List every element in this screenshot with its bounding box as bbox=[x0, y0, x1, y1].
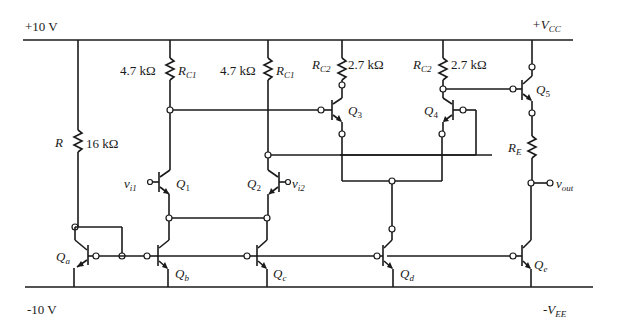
resistor-r bbox=[74, 40, 82, 227]
rc1-right-value: 4.7 kΩ bbox=[220, 64, 256, 77]
resistor-rc1-left bbox=[166, 40, 174, 110]
transistor-qc bbox=[250, 240, 267, 287]
resistor-re bbox=[528, 136, 536, 158]
re-name: RE bbox=[508, 141, 521, 154]
vout-terminal[interactable] bbox=[547, 180, 553, 186]
q4-label: Q4 bbox=[424, 104, 438, 117]
transistor-q3 bbox=[324, 98, 342, 131]
rc2-right-value: 2.7 kΩ bbox=[451, 58, 487, 71]
node-q34-emitter bbox=[389, 178, 395, 184]
vi1-label: vi1 bbox=[124, 177, 137, 190]
rc1-left-name: RC1 bbox=[178, 64, 196, 77]
circuit-diagram: +10 V +VCC -10 V -VEE R 16 kΩ 4.7 kΩ RC1… bbox=[0, 0, 618, 328]
rc2-left-name: RC2 bbox=[312, 58, 330, 71]
q5-label: Q5 bbox=[536, 83, 550, 96]
vi2-label: vi2 bbox=[292, 177, 305, 190]
resistor-rc1-right bbox=[264, 40, 272, 152]
qe-label: Qe bbox=[534, 258, 547, 271]
resistor-r-name: R bbox=[55, 136, 63, 149]
transistor-qe bbox=[516, 240, 531, 287]
vcc-label: +VCC bbox=[532, 18, 561, 31]
node-output bbox=[528, 180, 534, 186]
qa-label: Qa bbox=[56, 250, 70, 263]
resistor-rc2-left bbox=[338, 40, 346, 82]
transistor-qb bbox=[150, 240, 169, 287]
qb-label: Qb bbox=[175, 267, 189, 280]
transistor-q4 bbox=[443, 98, 466, 131]
vout-label: vout bbox=[556, 177, 573, 190]
vee-label: -VEE bbox=[543, 303, 566, 316]
rc1-right-name: RC1 bbox=[276, 64, 294, 77]
transistor-qa bbox=[74, 227, 99, 287]
node-q2-collector bbox=[265, 152, 271, 158]
transistor-qd bbox=[380, 240, 393, 287]
node-q4-collector bbox=[440, 86, 446, 92]
node-q1-collector bbox=[167, 107, 173, 113]
rc2-left-value: 2.7 kΩ bbox=[348, 58, 384, 71]
q2-label: Q2 bbox=[247, 177, 261, 190]
q3-label: Q3 bbox=[348, 104, 362, 117]
schematic bbox=[0, 0, 618, 328]
rc2-right-name: RC2 bbox=[413, 58, 431, 71]
rc1-left-value: 4.7 kΩ bbox=[120, 64, 156, 77]
qd-label: Qd bbox=[400, 267, 414, 280]
resistor-rc2-right bbox=[439, 40, 447, 86]
positive-rail-label: +10 V bbox=[25, 20, 58, 33]
qc-label: Qc bbox=[273, 267, 286, 280]
q1-label: Q1 bbox=[176, 177, 190, 190]
negative-rail-label: -10 V bbox=[27, 303, 57, 316]
transistor-q5 bbox=[516, 76, 532, 110]
transistor-q2 bbox=[268, 170, 291, 215]
resistor-r-value: 16 kΩ bbox=[86, 137, 118, 150]
transistor-q1 bbox=[148, 170, 171, 218]
